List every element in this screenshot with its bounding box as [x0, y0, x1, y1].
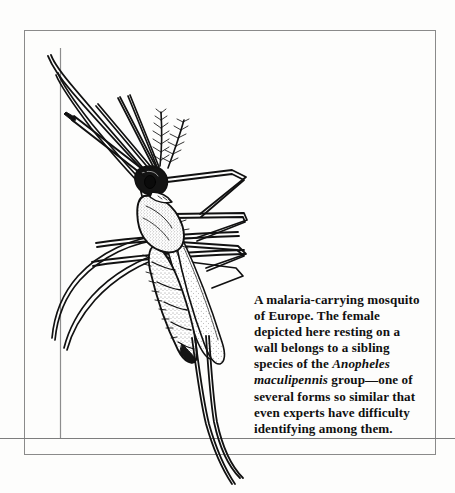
thorax: [137, 196, 190, 253]
antenna-right: [162, 119, 189, 168]
figure-page: Pen-and-ink drawing of a female Anophele…: [0, 0, 455, 493]
caption-text: A malaria-carrying mosquito of Europe. T…: [254, 292, 426, 437]
figure-caption: A malaria-carrying mosquito of Europe. T…: [254, 292, 426, 437]
mosquito-body-group: [48, 55, 247, 484]
